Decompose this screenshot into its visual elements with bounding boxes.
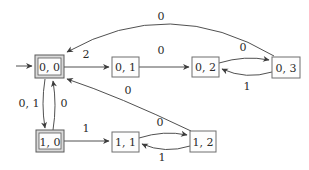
state-q10-label: 1, 0: [40, 136, 61, 149]
state-q02: 0, 2: [192, 57, 219, 77]
edge-q02-q03: [219, 58, 269, 63]
edge-q00-q10: [43, 79, 45, 128]
state-q02-label: 0, 2: [195, 61, 216, 74]
edge-label-q12-q00: 0: [125, 84, 132, 97]
state-q12-label: 1, 2: [193, 136, 214, 149]
edge-label-q03-q00: 0: [158, 10, 165, 23]
edge-label-q00-q01: 2: [83, 48, 90, 61]
state-q01-label: 0, 1: [115, 61, 136, 74]
state-q12: 1, 2: [190, 131, 216, 152]
state-q01: 0, 1: [112, 57, 139, 77]
edge-label-q01-q02: 0: [158, 44, 165, 57]
state-q11: 1, 1: [112, 132, 139, 152]
edge-label-q11-q12: 0: [157, 116, 164, 129]
automaton-svg: 2 0 0 1 0 0, 1 0 1 0 1 0 0, 0 0, 1: [0, 0, 309, 170]
edge-q03-q02: [222, 69, 272, 75]
states: 0, 0 0, 1 0, 2 0, 3 1, 0: [35, 55, 300, 152]
edge-q12-q11: [142, 144, 190, 150]
state-q10: 1, 0: [36, 130, 64, 152]
state-q11-label: 1, 1: [115, 136, 136, 149]
edge-label-q12-q11: 1: [159, 151, 166, 164]
state-q03: 0, 3: [272, 57, 300, 78]
edge-label-q10-q00: 0: [61, 97, 68, 110]
edge-q10-q00: [53, 81, 55, 130]
edge-label-q03-q02: 1: [244, 80, 251, 93]
edge-label-q00-q10: 0, 1: [19, 97, 40, 110]
edge-q11-q12: [139, 133, 187, 138]
edge-label-q02-q03: 0: [240, 41, 247, 54]
state-q00-label: 0, 0: [39, 61, 60, 74]
state-q00: 0, 0: [35, 55, 64, 78]
edge-label-q10-q11: 1: [83, 122, 90, 135]
state-q03-label: 0, 3: [276, 62, 297, 75]
automaton-diagram: 2 0 0 1 0 0, 1 0 1 0 1 0 0, 0 0, 1: [0, 0, 309, 170]
